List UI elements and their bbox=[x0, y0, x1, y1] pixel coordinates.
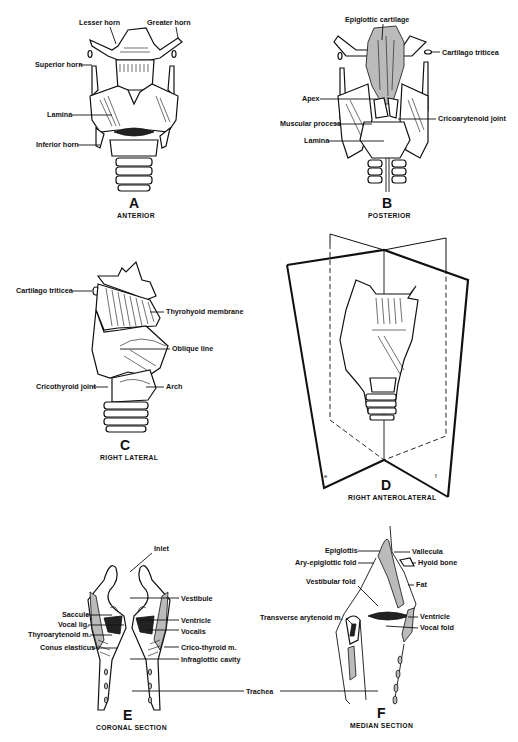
ventricle-f bbox=[368, 612, 410, 620]
label-arch: Arch bbox=[166, 382, 182, 391]
panel-c-caption: RIGHT LATERAL bbox=[100, 454, 158, 461]
vocal-fold-f bbox=[402, 608, 414, 642]
plane-label-f: f bbox=[435, 473, 437, 479]
cartilago-triticea-b bbox=[425, 50, 432, 54]
label-hyoid-bone: Hyoid bone bbox=[418, 558, 457, 567]
label-apex: Apex bbox=[302, 94, 320, 103]
panel-d-caption: RIGHT ANTEROLATERAL bbox=[348, 494, 436, 501]
label-oblique-line: Oblique line bbox=[172, 344, 213, 353]
panel-c-letter: C bbox=[120, 437, 130, 453]
label-inlet: Inlet bbox=[154, 544, 169, 553]
label-cricothyroid-joint: Cricothyroid joint bbox=[36, 382, 97, 391]
panel-b-caption: POSTERIOR bbox=[368, 212, 411, 219]
panel-b: Epiglottic cartilage Cartilago triticea … bbox=[280, 15, 506, 219]
label-superior-horn: Superior horn bbox=[35, 60, 83, 69]
cartilago-triticea-right bbox=[172, 51, 176, 58]
label-thyrohyoid-membrane: Thyrohyoid membrane bbox=[166, 307, 243, 316]
label-infraglottic-cavity: Infraglottic cavity bbox=[181, 655, 241, 664]
label-lesser-horn: Lesser horn bbox=[79, 18, 120, 27]
panel-f-letter: F bbox=[377, 705, 386, 721]
panel-d-letter: D bbox=[381, 477, 391, 493]
label-trachea: Trachea bbox=[246, 687, 274, 696]
label-conus-elasticus: Conus elasticus bbox=[40, 643, 95, 652]
cricoid-cartilage bbox=[110, 140, 158, 156]
panel-a-caption: ANTERIOR bbox=[117, 212, 155, 219]
thyroid-lamina bbox=[90, 84, 178, 132]
label-epiglottis: Epiglottis bbox=[325, 546, 358, 555]
label-transverse-arytenoid-m: Transverse arytenoid m. bbox=[260, 613, 343, 622]
epiglottic-cartilage bbox=[366, 26, 404, 104]
label-vocal-lig: Vocal lig. bbox=[58, 620, 89, 629]
label-vestibular-fold: Vestibular fold bbox=[306, 577, 356, 586]
label-lamina-a: Lamina bbox=[47, 110, 73, 119]
label-vocalis: Vocalis bbox=[181, 627, 206, 636]
panel-d: e f D RIGHT ANTEROLATERAL bbox=[287, 234, 468, 501]
label-vestibule: Vestibule bbox=[181, 594, 213, 603]
label-crico-thyroid-m: Crico-thyroid m. bbox=[181, 643, 237, 652]
label-vallecula: Vallecula bbox=[412, 547, 444, 556]
panel-f: Epiglottis Ary-epiglottic fold Vestibula… bbox=[260, 526, 457, 729]
epiglottis-f bbox=[378, 539, 404, 608]
label-ary-epiglottic-fold: Ary-epiglottic fold bbox=[295, 558, 357, 567]
label-cartilago-triticea-b: Cartilago triticea bbox=[442, 48, 500, 57]
label-lamina-b: Lamina bbox=[304, 136, 330, 145]
label-muscular-process: Muscular process bbox=[280, 119, 341, 128]
label-saccule: Saccule bbox=[62, 610, 89, 619]
larynx-figure: Lesser horn Greater horn Superior horn L… bbox=[0, 0, 518, 742]
label-ventricle-e: Ventricle bbox=[181, 616, 211, 625]
label-ventricle-f: Ventricle bbox=[420, 612, 450, 621]
label-fat: Fat bbox=[416, 580, 427, 589]
cricoid-lamina bbox=[360, 122, 410, 158]
label-cartilago-triticea-c: Cartilago triticea bbox=[16, 286, 74, 295]
panel-e-caption: CORONAL SECTION bbox=[96, 724, 167, 731]
hyoid-bone-f bbox=[400, 558, 414, 566]
superior-horn-left bbox=[92, 66, 98, 96]
label-cricoarytenoid-joint: Cricoarytenoid joint bbox=[438, 114, 506, 123]
label-greater-horn: Greater horn bbox=[147, 18, 191, 27]
panel-e-letter: E bbox=[123, 707, 132, 723]
label-thyroarytenoid-m: Thyroarytenoid m. bbox=[28, 630, 91, 639]
panel-e: Inlet Vestibule Saccule Vocal lig. Thyro… bbox=[28, 544, 378, 731]
label-inferior-horn: Inferior horn bbox=[36, 140, 79, 149]
panel-b-letter: B bbox=[382, 195, 392, 211]
panel-c: Cartilago triticea Thyrohyoid membrane O… bbox=[16, 262, 243, 461]
label-epiglottic-cartilage: Epiglottic cartilage bbox=[345, 15, 409, 24]
hyoid-bone bbox=[90, 28, 182, 60]
cartilago-triticea-left bbox=[88, 51, 92, 58]
panel-f-caption: MEDIAN SECTION bbox=[350, 722, 413, 729]
plane-label-e: e bbox=[324, 473, 328, 479]
panel-a-letter: A bbox=[129, 195, 139, 211]
panel-a: Lesser horn Greater horn Superior horn L… bbox=[35, 18, 191, 219]
label-vocal-fold: Vocal fold bbox=[420, 623, 454, 632]
